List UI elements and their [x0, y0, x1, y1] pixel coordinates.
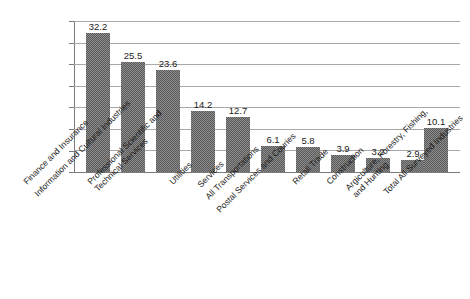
bar-value-3: 14.2: [185, 100, 221, 110]
bar-chart: 35 30 25 20 15 10 5 0 32.2 25.5: [0, 0, 470, 299]
bar-value-1: 25.5: [115, 51, 151, 61]
bar-0: [86, 33, 110, 172]
gridline-35: [74, 21, 460, 22]
bar-3: [191, 111, 215, 172]
gridline-30: [74, 43, 460, 44]
bar-value-2: 23.6: [150, 59, 186, 69]
bar-value-0: 32.2: [80, 22, 116, 32]
bar-value-4: 12.7: [220, 106, 256, 116]
